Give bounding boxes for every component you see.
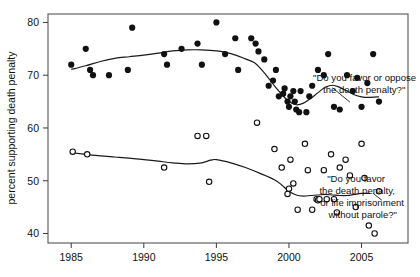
data-point (291, 181, 296, 186)
data-point (288, 157, 293, 162)
data-point (285, 191, 290, 196)
data-point (286, 104, 292, 110)
y-tick-label: 80 (27, 16, 39, 28)
data-point (261, 56, 267, 62)
data-point (302, 141, 307, 146)
y-tick-label: 60 (27, 122, 39, 134)
data-point (270, 77, 276, 83)
data-point (164, 62, 170, 68)
data-point (178, 46, 184, 52)
data-point (232, 35, 238, 41)
y-tick-label: 70 (27, 69, 39, 81)
data-point (325, 51, 331, 57)
data-point (199, 62, 205, 68)
data-point (372, 231, 377, 236)
data-point (358, 104, 364, 110)
data-point (106, 72, 112, 78)
data-point (287, 93, 293, 99)
data-point (331, 104, 337, 110)
data-point (284, 98, 290, 104)
data-point (297, 88, 303, 94)
data-point (252, 40, 258, 46)
data-point (248, 35, 254, 41)
data-point (70, 149, 75, 154)
data-point (303, 109, 309, 115)
data-point (254, 120, 259, 125)
data-point (195, 133, 200, 138)
data-point (337, 106, 343, 112)
data-point (282, 85, 288, 91)
data-point (366, 223, 371, 228)
x-axis-ticks (71, 243, 361, 248)
y-axis-ticks (43, 22, 48, 233)
y-axis-tick-labels: 4050607080 (27, 16, 39, 239)
data-point (359, 141, 364, 146)
data-point (290, 88, 296, 94)
annotation-life-line3: or life imprisonment (320, 197, 404, 208)
data-point (306, 93, 312, 99)
data-point (194, 40, 200, 46)
data-point (280, 91, 286, 97)
data-point (266, 83, 272, 89)
data-point (343, 157, 348, 162)
data-point (161, 51, 167, 57)
data-point (328, 152, 333, 157)
data-point (321, 167, 326, 172)
x-axis-tick-labels: 19851990199520002005 (60, 251, 374, 263)
data-point (84, 152, 89, 157)
x-tick-label: 2000 (277, 251, 301, 263)
y-tick-label: 40 (27, 227, 39, 239)
data-point (213, 19, 219, 25)
data-point (222, 51, 228, 57)
data-point (286, 186, 291, 191)
annotation-life-imprisonment: "Do you favor the death penalty, or life… (319, 173, 404, 220)
data-point (309, 83, 315, 89)
data-point (370, 51, 376, 57)
annotation-death-penalty-line2: the death penalty?" (323, 84, 405, 95)
data-point (272, 146, 277, 151)
data-point (129, 25, 135, 31)
data-point (309, 207, 314, 212)
annotation-life-line2: the death penalty, (319, 185, 395, 196)
data-point (68, 62, 74, 68)
data-point (235, 67, 241, 73)
data-point (255, 48, 261, 54)
annotation-life-line1: "Do you favor (327, 173, 386, 184)
data-point (161, 165, 166, 170)
y-axis-title: percent supporting death penalty (5, 51, 17, 205)
x-tick-label: 2005 (350, 251, 374, 263)
data-point (125, 67, 131, 73)
scatter-plot: 4050607080 19851990199520002005 percent … (0, 0, 420, 277)
data-point (292, 98, 298, 104)
annotation-death-penalty: "Do you favor or oppose the death penalt… (313, 72, 416, 95)
data-point (206, 179, 211, 184)
data-point (279, 165, 284, 170)
data-point (376, 98, 382, 104)
data-point (296, 109, 302, 115)
data-point (305, 167, 310, 172)
x-tick-label: 1995 (205, 251, 229, 263)
chart-container: 4050607080 19851990199520002005 percent … (0, 0, 420, 277)
data-point (337, 165, 342, 170)
x-tick-label: 1985 (60, 251, 84, 263)
data-point (87, 67, 93, 73)
data-point (273, 67, 279, 73)
y-tick-label: 50 (27, 175, 39, 187)
data-point (204, 133, 209, 138)
data-point (295, 207, 300, 212)
annotation-death-penalty-line1: "Do you favor or oppose (313, 72, 416, 83)
data-point (90, 72, 96, 78)
annotation-life-line4: without parole?" (328, 209, 397, 220)
data-point (83, 46, 89, 52)
series-death-penalty-points (68, 19, 382, 115)
x-tick-label: 1990 (132, 251, 156, 263)
